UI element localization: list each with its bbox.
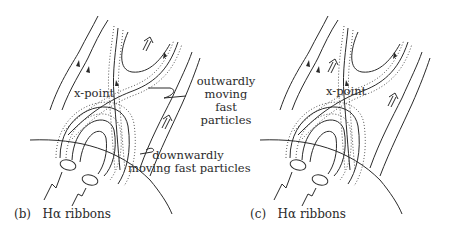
caption-c: (c) Hα ribbons	[250, 208, 346, 221]
outward-arrow-icon	[143, 37, 153, 51]
panel-b-diagram	[30, 16, 200, 214]
x-point-label-c: x-point	[326, 85, 366, 98]
outward-arrow-icon-3	[328, 59, 338, 73]
panel-c-diagram	[260, 16, 430, 214]
caption-b: (b) Hα ribbons	[14, 208, 111, 221]
outward-arrow-icon-2	[162, 115, 172, 129]
x-point-label-b: x-point	[74, 87, 114, 100]
downward-particles-label: downwardly moving fast particles	[128, 149, 248, 175]
outward-particles-label: outwardly moving fast particles	[186, 75, 266, 127]
outward-arrow-icon-4	[388, 93, 398, 107]
